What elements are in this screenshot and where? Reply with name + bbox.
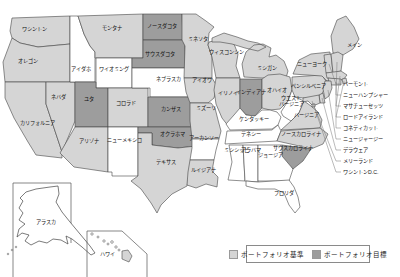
state-label-nv: ネバダ (51, 93, 66, 101)
state-label-il: イリノイ (218, 90, 238, 96)
state-label-wv: ウエストバージニア (279, 94, 304, 107)
us-map-svg: ワシントンオレゴンカリフォルニアネバダアイダホモンタナワイオミングユタコロラドア… (0, 0, 400, 277)
east-label-nh: ニューハンプシャー (343, 92, 388, 98)
state-label-mo: ミズーリ (196, 104, 216, 111)
state-label-sd: サウスダコタ (145, 50, 175, 58)
state-label-va: バージニア (294, 112, 319, 118)
alaska-island (7, 253, 9, 255)
state-label-ca: カリフォルニア (20, 120, 55, 126)
state-label-ut: ユタ (84, 95, 94, 102)
state-label-az: アリゾナ (79, 138, 99, 144)
state-label-me: メイン (347, 42, 362, 48)
legend: ポートフォリオ基準 ポートフォリオ目標 (246, 245, 370, 263)
hawaii-inset-box (87, 231, 147, 277)
state-label-ky: ケンタッキー (239, 115, 269, 122)
state-label-tx: テキサス (156, 159, 176, 166)
east-label-ri: ロードアイランド (343, 114, 383, 120)
hawaii-island (91, 233, 93, 235)
portfolio-map-screen: ワシントンオレゴンカリフォルニアネバダアイダホモンタナワイオミングユタコロラドア… (0, 0, 400, 277)
hawaii-island (103, 240, 105, 242)
state-me (331, 16, 359, 55)
state-ks (148, 97, 193, 127)
leader-nj (328, 90, 341, 139)
state-label-ne: ネブラスカ (156, 75, 181, 82)
legend-item-target: ポートフォリオ目標 (312, 249, 387, 259)
target-label: ポートフォリオ目標 (324, 249, 387, 259)
legend-item-benchmark: ポートフォリオ基準 (229, 249, 304, 259)
east-label-ma: マサチューセッツ (343, 103, 383, 109)
state-ut (75, 82, 108, 127)
state-label-mt: モンタナ (102, 24, 122, 31)
state-label-mn: ミネソタ (188, 35, 208, 42)
target-swatch (312, 250, 321, 259)
state-nm (108, 127, 138, 176)
state-la (187, 160, 218, 188)
state-label-wa: ワシントン (22, 26, 47, 32)
state-label-ks: カンザス (161, 106, 181, 113)
state-label-or: オレゴン (18, 57, 38, 64)
state-fl (246, 180, 300, 213)
state-label-co: コロラド (116, 100, 136, 106)
state-label-nm: ニューメキシコ (107, 137, 142, 143)
state-label-ia: アイオワ (192, 77, 212, 83)
hawaii-island (97, 236, 99, 238)
hawaii-label: ハワイ (100, 251, 115, 257)
state-label-nd: ノースダコタ (147, 22, 177, 30)
state-label-mi: ミシガン (257, 64, 277, 72)
state-label-oh: オハイオ (267, 87, 287, 93)
hawaii-island (111, 241, 114, 244)
state-label-id: アイダホ (71, 65, 91, 73)
alaska-island (15, 246, 17, 248)
state-label-tn: テネシー (241, 131, 261, 138)
hawaii-island (115, 246, 117, 248)
state-wy (96, 58, 132, 88)
state-label-la: ルイジアナ (191, 167, 216, 173)
hawaii-big-island (122, 250, 132, 262)
leader-ri (336, 81, 344, 117)
east-label-vt: バーモント (343, 81, 368, 87)
state-label-wy: ワイオミング (99, 65, 129, 73)
alaska-label: アラスカ (36, 219, 56, 225)
state-label-wi: ウィスコンシン (209, 48, 244, 55)
benchmark-swatch (229, 250, 238, 259)
state-label-pa: ペンシルベニア (291, 83, 326, 89)
hawaii-island (107, 243, 109, 245)
hawaii-island (118, 249, 120, 251)
state-alaska (17, 186, 95, 255)
state-label-in: インディアナ (236, 88, 266, 96)
benchmark-label: ポートフォリオ基準 (241, 249, 304, 259)
state-label-nc: ノースカロライナ (281, 131, 321, 137)
east-label-de: デラウェア (343, 146, 368, 154)
state-label-ny: ニューヨーク (297, 61, 327, 67)
state-label-ok: オクラホマ (160, 131, 185, 137)
alaska-island (11, 249, 13, 251)
east-label-nj: ニュージャージー (343, 136, 383, 142)
state-ar (190, 139, 219, 160)
east-label-ct: コネティカット (343, 125, 378, 132)
us-map: ワシントンオレゴンカリフォルニアネバダアイダホモンタナワイオミングユタコロラドア… (0, 0, 400, 277)
state-label-sc: サウスカロライナ (273, 144, 313, 151)
state-label-ar: アーカンソー (189, 135, 219, 141)
state-label-fl: フロリダ (274, 189, 294, 197)
east-label-md: メリーランド (343, 158, 373, 164)
state-label-ga: ジョージア (258, 152, 283, 159)
state-co (108, 88, 148, 127)
state-in (240, 79, 262, 116)
east-label-dc: ワシントンD.C. (343, 169, 378, 175)
